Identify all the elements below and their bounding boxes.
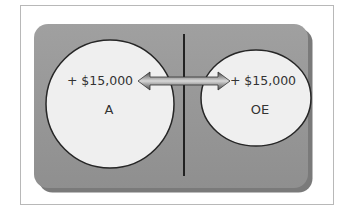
- owners-equity-change-label: + $15,000: [230, 73, 296, 88]
- accounting-equation-diagram: + $15,000 A + $15,000 OE: [0, 0, 362, 214]
- owners-equity-circle: [201, 50, 311, 146]
- assets-change-label: + $15,000: [67, 73, 133, 88]
- assets-label: A: [105, 102, 114, 117]
- owners-equity-label: OE: [251, 102, 269, 117]
